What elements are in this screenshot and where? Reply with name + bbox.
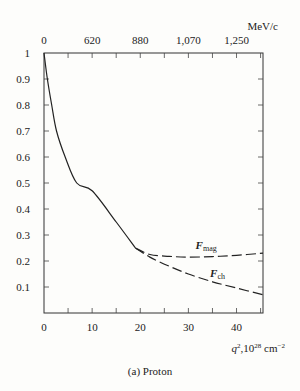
- data-curves: [44, 53, 263, 295]
- top-tick-label: 0: [41, 34, 47, 46]
- y-tick-label: 0.2: [16, 255, 30, 267]
- y-tick-label: 0.7: [16, 125, 30, 137]
- top-axis-unit: MeV/c: [247, 20, 278, 32]
- x-tick-label: 10: [87, 321, 99, 333]
- y-tick-label: 0.4: [16, 203, 30, 215]
- chart-caption: (a) Proton: [128, 365, 173, 378]
- y-tick-label: 1: [25, 47, 31, 59]
- x-tick-label: 30: [183, 321, 195, 333]
- form-factor-chart: 0102030400.10.20.30.40.50.60.70.80.91062…: [0, 0, 300, 391]
- top-tick-label: 620: [84, 34, 101, 46]
- fmag-label: Fmag: [195, 239, 217, 253]
- y-tick-label: 0.9: [16, 73, 30, 85]
- top-tick-label: 880: [132, 34, 149, 46]
- y-tick-label: 0.5: [16, 177, 30, 189]
- top-tick-label: 1,250: [224, 34, 249, 46]
- fch-label: Fch: [209, 267, 225, 281]
- series-common-measured-: [44, 53, 135, 248]
- x-tick-label: 20: [135, 321, 147, 333]
- y-tick-label: 0.6: [16, 151, 30, 163]
- top-tick-label: 1,070: [176, 34, 201, 46]
- x-axis-label: q2,1028 cm−2: [232, 342, 286, 354]
- annotations: FmagFch: [195, 239, 225, 280]
- y-tick-label: 0.3: [16, 229, 30, 241]
- x-tick-label: 0: [41, 321, 47, 333]
- y-tick-label: 0.1: [16, 281, 30, 293]
- tick-labels: 0102030400.10.20.30.40.50.60.70.80.91062…: [16, 20, 285, 378]
- y-tick-label: 0.8: [16, 99, 30, 111]
- x-tick-label: 40: [231, 321, 243, 333]
